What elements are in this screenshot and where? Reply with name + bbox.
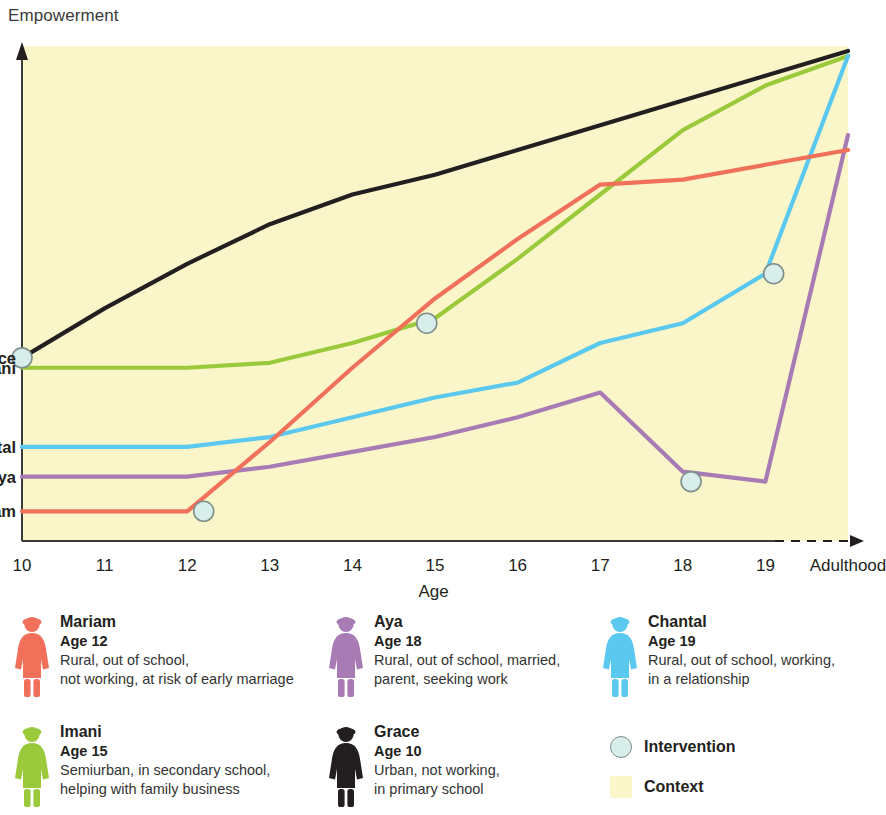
female-figure-icon <box>326 722 370 812</box>
legend-text-chantal: Chantal Age 19 Rural, out of school, wor… <box>644 612 835 689</box>
female-figure-icon-svg <box>326 612 366 698</box>
legend-age: Age 18 <box>374 632 560 651</box>
legend-key-label: Intervention <box>632 738 736 756</box>
legend-desc-line1: Rural, out of school, <box>60 651 294 670</box>
legend-item-grace: Grace Age 10 Urban, not working, in prim… <box>326 722 606 812</box>
legend-item-imani: Imani Age 15 Semiurban, in secondary sch… <box>12 722 332 812</box>
legend-name: Chantal <box>648 612 835 632</box>
legend-text-aya: Aya Age 18 Rural, out of school, married… <box>370 612 560 689</box>
legend-key-label: Context <box>632 778 704 796</box>
intervention-marker-mariam[interactable] <box>194 501 214 521</box>
legend-age: Age 15 <box>60 742 270 761</box>
y-axis-title: Empowerment <box>8 6 119 26</box>
legend-item-aya: Aya Age 18 Rural, out of school, married… <box>326 612 606 702</box>
legend-desc-line2: in primary school <box>374 780 500 799</box>
x-tick-14: 14 <box>343 556 362 576</box>
legend-desc-line2: not working, at risk of early marriage <box>60 670 294 689</box>
female-figure-icon <box>326 612 370 702</box>
legend-item-mariam: Mariam Age 12 Rural, out of school, not … <box>12 612 332 702</box>
legend-name: Mariam <box>60 612 294 632</box>
x-tick-10: 10 <box>13 556 32 576</box>
series-label-imani: Imani <box>0 358 16 377</box>
legend-name: Imani <box>60 722 270 742</box>
legend-name: Grace <box>374 722 500 742</box>
x-tick-13: 13 <box>260 556 279 576</box>
legend-desc-line1: Rural, out of school, working, <box>648 651 835 670</box>
x-tick-19: 19 <box>756 556 775 576</box>
x-tick-18: 18 <box>673 556 692 576</box>
chart-plot-area <box>0 36 867 561</box>
legend-desc-line2: helping with family business <box>60 780 270 799</box>
x-axis-title: Age <box>0 582 867 602</box>
x-tick-11: 11 <box>96 556 114 576</box>
legend: Mariam Age 12 Rural, out of school, not … <box>0 604 867 815</box>
x-axis-tick-labels: 10111213141516171819Adulthood <box>0 556 867 584</box>
legend-desc-line2: in a relationship <box>648 670 835 689</box>
female-figure-icon <box>12 612 56 702</box>
legend-text-grace: Grace Age 10 Urban, not working, in prim… <box>370 722 500 799</box>
context-background <box>22 46 848 541</box>
female-figure-icon-svg <box>600 612 640 698</box>
legend-age: Age 19 <box>648 632 835 651</box>
legend-text-mariam: Mariam Age 12 Rural, out of school, not … <box>56 612 294 689</box>
legend-age: Age 10 <box>374 742 500 761</box>
legend-key-context: Context <box>610 776 704 798</box>
legend-desc-line2: parent, seeking work <box>374 670 560 689</box>
trajectory-line-chart <box>0 36 867 561</box>
female-figure-icon-svg <box>12 612 52 698</box>
intervention-circle-icon <box>610 736 632 758</box>
legend-text-imani: Imani Age 15 Semiurban, in secondary sch… <box>56 722 270 799</box>
series-label-mariam: Mariam <box>0 502 16 521</box>
context-swatch-icon <box>610 776 632 798</box>
intervention-marker-aya[interactable] <box>681 472 701 492</box>
series-label-chantal: Chantal <box>0 437 16 456</box>
x-tick-16: 16 <box>508 556 527 576</box>
female-figure-icon <box>600 612 644 702</box>
x-tick-15: 15 <box>426 556 445 576</box>
legend-age: Age 12 <box>60 632 294 651</box>
x-tick-17: 17 <box>591 556 610 576</box>
x-tick-adulthood: Adulthood <box>810 556 886 576</box>
female-figure-icon-svg <box>12 722 52 808</box>
legend-key-intervention: Intervention <box>610 736 736 758</box>
series-label-aya: Aya <box>0 467 16 486</box>
legend-item-chantal: Chantal Age 19 Rural, out of school, wor… <box>600 612 865 702</box>
x-tick-12: 12 <box>178 556 197 576</box>
female-figure-icon-svg <box>326 722 366 808</box>
female-figure-icon <box>12 722 56 812</box>
legend-desc-line1: Semiurban, in secondary school, <box>60 761 270 780</box>
legend-desc-line1: Rural, out of school, married, <box>374 651 560 670</box>
intervention-marker-imani[interactable] <box>417 313 437 333</box>
legend-name: Aya <box>374 612 560 632</box>
intervention-marker-chantal[interactable] <box>764 264 784 284</box>
legend-desc-line1: Urban, not working, <box>374 761 500 780</box>
